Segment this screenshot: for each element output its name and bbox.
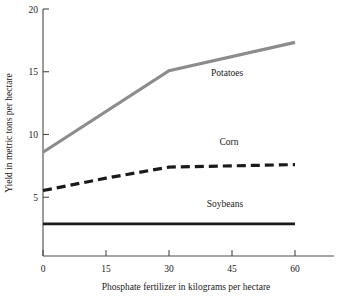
chart-canvas: 20 15 10 5 0 15 30 45 60 Phosphate ferti… <box>0 0 346 297</box>
y-tick-label-15: 15 <box>29 67 39 77</box>
y-tick-label-20: 20 <box>29 5 39 15</box>
y-tick-label-5: 5 <box>33 193 38 203</box>
x-tick-marks <box>43 250 295 256</box>
series-label-soybeans: Soybeans <box>207 199 244 209</box>
y-tick-label-10: 10 <box>29 130 39 140</box>
y-axis-title: Yield in metric tons per hectare <box>4 73 14 193</box>
series-line-potatoes <box>43 42 295 152</box>
x-tick-label-15: 15 <box>101 264 111 274</box>
x-tick-label-60: 60 <box>290 264 300 274</box>
axis-group <box>43 9 334 256</box>
x-tick-label-45: 45 <box>227 264 237 274</box>
y-tick-marks <box>43 9 49 197</box>
x-tick-label-30: 30 <box>164 264 174 274</box>
series-group <box>43 42 295 224</box>
series-label-potatoes: Potatoes <box>211 68 243 78</box>
x-tick-label-0: 0 <box>41 264 46 274</box>
series-line-corn <box>43 165 295 191</box>
x-axis-title: Phosphate fertilizer in kilograms per he… <box>102 282 271 292</box>
series-label-corn: Corn <box>219 137 238 147</box>
series-labels-group: Potatoes Corn Soybeans <box>207 68 244 209</box>
line-chart: 20 15 10 5 0 15 30 45 60 Phosphate ferti… <box>0 0 346 297</box>
